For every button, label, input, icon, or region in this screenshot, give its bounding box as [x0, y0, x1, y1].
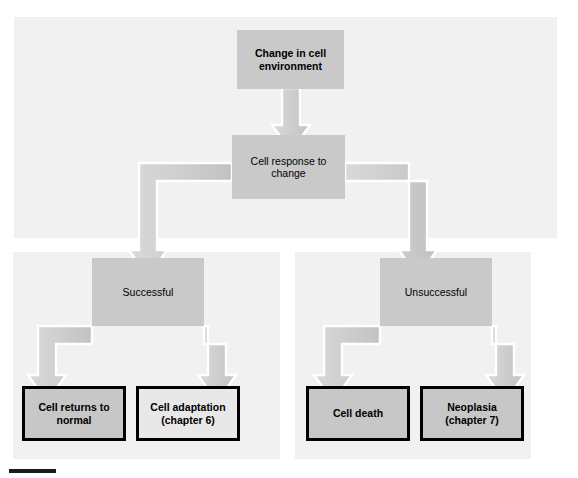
flowchart-figure: Change in cell environment Cell response… [0, 0, 578, 478]
node-returns-label: Cell returns to normal [38, 401, 109, 427]
bottom-rule-mark [9, 469, 56, 473]
node-adaptation-line2: (chapter 6) [161, 414, 215, 426]
node-returns-line2: normal [56, 414, 91, 426]
node-neoplasia: Neoplasia (chapter 7) [420, 386, 524, 441]
node-adaptation-label: Cell adaptation (chapter 6) [150, 401, 225, 427]
node-change-line1: Change in cell [255, 47, 326, 59]
node-response-line2: change [271, 167, 305, 179]
node-unsuccessful: Unsuccessful [380, 258, 492, 326]
node-response-line1: Cell response to [251, 155, 327, 167]
node-cell-response-to-change: Cell response to change [232, 135, 345, 199]
node-neoplasia-label: Neoplasia (chapter 7) [445, 401, 499, 427]
node-neoplasia-line1: Neoplasia [447, 401, 497, 413]
node-change-label: Change in cell environment [255, 47, 326, 72]
node-response-label: Cell response to change [251, 155, 327, 180]
node-neoplasia-line2: (chapter 7) [445, 414, 499, 426]
node-adaptation-line1: Cell adaptation [150, 401, 225, 413]
node-successful-label: Successful [123, 286, 174, 298]
node-successful: Successful [92, 258, 204, 326]
node-unsuccessful-label: Unsuccessful [405, 286, 467, 298]
node-change-in-cell-environment: Change in cell environment [237, 30, 344, 89]
node-cell-death: Cell death [306, 386, 410, 441]
node-change-line2: environment [259, 60, 322, 72]
node-cell-returns-to-normal: Cell returns to normal [22, 386, 126, 441]
node-death-label: Cell death [333, 407, 383, 420]
node-returns-line1: Cell returns to [38, 401, 109, 413]
node-cell-adaptation: Cell adaptation (chapter 6) [136, 386, 240, 441]
